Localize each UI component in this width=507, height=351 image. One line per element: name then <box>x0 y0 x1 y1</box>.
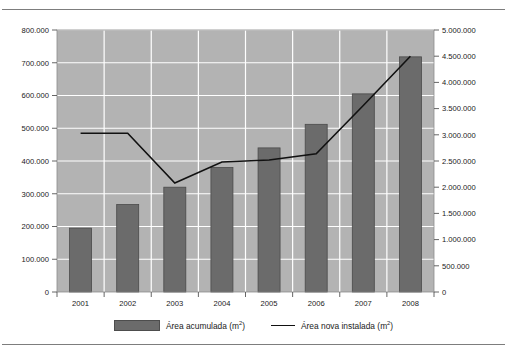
right-axis-tick-label: 500.000 <box>442 262 469 271</box>
bar-2006 <box>305 124 327 292</box>
line-swatch-icon <box>271 325 295 326</box>
bar-2007 <box>352 94 374 292</box>
right-axis-tick-label: 0 <box>442 288 446 297</box>
x-axis-label-2004: 2004 <box>213 299 230 308</box>
left-axis-tick-label: 500.000 <box>22 124 49 133</box>
left-axis-tick-label: 0 <box>45 288 49 297</box>
right-axis-tick-label: 4.500.000 <box>442 52 476 61</box>
chart-figure: 0100.000200.000300.000400.000500.000600.… <box>0 0 507 351</box>
x-axis-label-2007: 2007 <box>355 299 372 308</box>
bar-2001 <box>70 228 92 292</box>
x-axis-label-2008: 2008 <box>402 299 419 308</box>
legend-label-area-nova-instalada: Área nova instalada (m2) <box>301 320 393 331</box>
bar-2005 <box>258 148 280 292</box>
bar-2008 <box>399 57 421 292</box>
right-axis-tick-label: 2.000.000 <box>442 183 476 192</box>
legend-item-area-nova-instalada: Área nova instalada (m2) <box>271 320 393 331</box>
right-axis-tick-label: 3.000.000 <box>442 131 476 140</box>
left-axis-tick-label: 800.000 <box>22 26 49 35</box>
x-axis-label-2005: 2005 <box>261 299 278 308</box>
right-axis-tick-label: 3.500.000 <box>442 104 476 113</box>
bottom-divider <box>2 344 505 345</box>
right-axis-tick-label: 1.500.000 <box>442 209 476 218</box>
x-axis-label-2006: 2006 <box>308 299 325 308</box>
chart-legend: Área acumulada (m2) Área nova instalada … <box>0 320 507 331</box>
x-axis-label-2001: 2001 <box>72 299 89 308</box>
left-axis-tick-label: 600.000 <box>22 91 49 100</box>
right-axis-tick-label: 4.000.000 <box>442 78 476 87</box>
right-axis-tick-label: 2.500.000 <box>442 157 476 166</box>
bar-2004 <box>211 168 233 292</box>
combo-chart: 0100.000200.000300.000400.000500.000600.… <box>0 0 507 320</box>
legend-item-area-acumulada: Área acumulada (m2) <box>114 320 245 331</box>
legend-label-area-acumulada: Área acumulada (m2) <box>166 320 245 331</box>
x-axis-label-2002: 2002 <box>119 299 136 308</box>
left-axis-tick-label: 700.000 <box>22 59 49 68</box>
left-axis-tick-label: 400.000 <box>22 157 49 166</box>
right-axis: 0500.0001.000.0001.500.0002.000.0002.500… <box>434 26 476 297</box>
right-axis-tick-label: 5.000.000 <box>442 26 476 35</box>
left-axis: 0100.000200.000300.000400.000500.000600.… <box>22 26 57 297</box>
left-axis-tick-label: 100.000 <box>22 255 49 264</box>
left-axis-tick-label: 300.000 <box>22 190 49 199</box>
right-axis-tick-label: 1.000.000 <box>442 235 476 244</box>
x-axis-label-2003: 2003 <box>166 299 183 308</box>
bar-2002 <box>117 205 139 292</box>
x-axis: 20012002200320042005200620072008 <box>57 292 434 308</box>
bar-2003 <box>164 187 186 292</box>
bar-swatch-icon <box>114 320 160 331</box>
left-axis-tick-label: 200.000 <box>22 222 49 231</box>
plot-area <box>57 30 434 292</box>
